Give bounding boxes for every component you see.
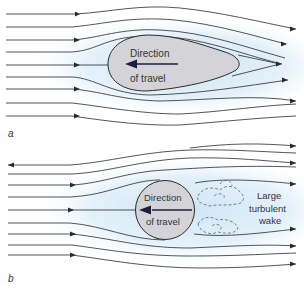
direction-label-b-line1: Direction <box>144 192 182 203</box>
streamline-diagram: Direction of travel a <box>0 0 304 290</box>
panel-a: Direction of travel a <box>6 7 304 139</box>
wake-label-line3: wake <box>258 215 281 226</box>
direction-label-b-line2: of travel <box>146 216 180 227</box>
panel-letter-b: b <box>8 273 14 284</box>
direction-label-a-line1: Direction <box>130 48 169 59</box>
panel-letter-a: a <box>8 128 14 139</box>
panel-b: Direction of travel Large turbulent wake… <box>8 144 304 285</box>
wake-label-line1: Large <box>257 190 281 201</box>
wake-label-line2: turbulent <box>249 203 286 214</box>
direction-label-a-line2: of travel <box>130 73 166 84</box>
